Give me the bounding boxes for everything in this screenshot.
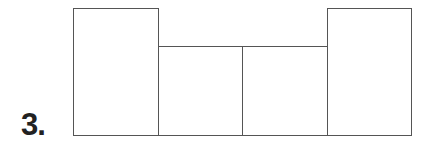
rect-tall-right <box>327 8 412 136</box>
rect-short-mid-left <box>158 46 243 136</box>
problem-number: 3. <box>21 109 45 140</box>
rect-tall-left <box>73 8 159 136</box>
rect-short-mid-right <box>242 46 328 136</box>
